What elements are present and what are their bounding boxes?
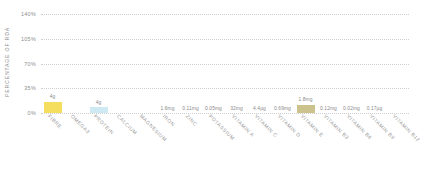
y-tick-label: 35%	[3, 85, 36, 91]
plot-area	[41, 14, 409, 113]
x-axis-category-label: FIBRE	[46, 113, 63, 130]
x-axis-category-label: CALCIUM	[115, 113, 138, 136]
y-tick-label: 140%	[3, 11, 36, 17]
y-tick-label: 105%	[3, 36, 36, 42]
x-axis-category-label: VITAMIN B12	[391, 113, 421, 143]
x-axis-category-label: VITAMIN C	[253, 113, 278, 138]
x-axis-category-label: IRON	[161, 113, 176, 128]
bar-value-label: 1.8mg	[290, 97, 322, 102]
gridline	[41, 64, 409, 65]
bar-value-label: 4g	[37, 94, 69, 99]
gridline	[41, 14, 409, 15]
x-axis-category-label: PROTEIN	[92, 113, 115, 136]
x-axis-category-label: VITAMIN D	[276, 113, 301, 138]
gridline	[41, 39, 409, 40]
bar-value-label: 0.69mg	[267, 106, 299, 111]
x-axis-labels: FIBREOMEGA3PROTEINCALCIUMMAGNESIUMIRONZI…	[41, 113, 409, 173]
x-axis-category-label: OMEGA3	[69, 113, 91, 135]
x-axis-category-label: ZINC	[184, 113, 198, 127]
bar	[44, 102, 62, 113]
bar-value-label: 0.17µg	[359, 106, 391, 111]
nutrition-rda-bar-chart: PERCENTAGE OF RDA FIBREOMEGA3PROTEINCALC…	[0, 0, 423, 173]
gridline	[41, 88, 409, 89]
y-tick-label: 70%	[3, 61, 36, 67]
bar-value-label: 4g	[83, 100, 115, 105]
y-tick-label: 0%	[3, 110, 36, 116]
x-axis-category-label: VITAMIN E	[299, 113, 324, 138]
